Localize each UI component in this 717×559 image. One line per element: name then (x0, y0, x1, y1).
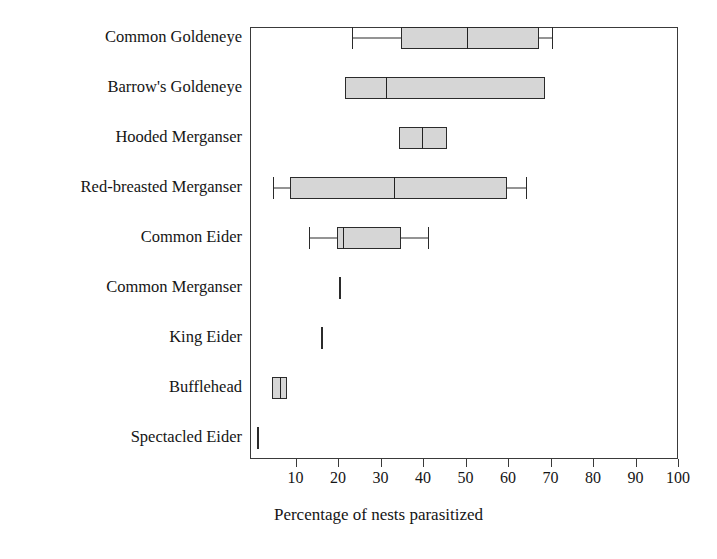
box-plot-row (251, 273, 677, 303)
box-plot-row (251, 123, 677, 153)
x-axis-tick-label: 70 (543, 470, 559, 486)
category-label: Common Eider (0, 229, 242, 246)
x-axis-tick-labels: 102030405060708090100 (250, 470, 678, 492)
x-axis-tick (636, 459, 637, 467)
box-plot-lower-whisker-cap (309, 227, 310, 249)
x-axis-tick-label: 30 (373, 470, 389, 486)
box-plot-lower-whisker (352, 38, 401, 39)
box-plot-upper-whisker-cap (526, 177, 527, 199)
box-plot-upper-whisker (507, 188, 526, 189)
box-plot-row (251, 23, 677, 53)
box-plot-row (251, 423, 677, 453)
x-axis-tick-label: 80 (585, 470, 601, 486)
box-plot-row (251, 173, 677, 203)
box-plot-median-line (343, 227, 344, 249)
x-axis-tick (678, 459, 679, 467)
category-label: Common Merganser (0, 279, 242, 296)
category-label: Barrow's Goldeneye (0, 79, 242, 96)
category-label: Red-breasted Merganser (0, 179, 242, 196)
plot-area (251, 28, 677, 458)
x-axis-tick-label: 50 (458, 470, 474, 486)
category-label: Bufflehead (0, 379, 242, 396)
category-label: Spectacled Eider (0, 429, 242, 446)
box-plot-single-value-marker (321, 327, 323, 349)
x-axis-tick-label: 20 (330, 470, 346, 486)
box-plot-lower-whisker-cap (352, 27, 353, 49)
box-plot-single-value-marker (257, 427, 259, 449)
box-plot-lower-whisker-cap (273, 177, 274, 199)
box-plot-row (251, 73, 677, 103)
box-plot-median-line (394, 177, 395, 199)
x-axis-tick (338, 459, 339, 467)
box-plot-single-value-marker (339, 277, 341, 299)
x-axis-ticks (250, 459, 678, 468)
box-plot-median-line (280, 377, 281, 399)
x-axis-tick-label: 40 (415, 470, 431, 486)
x-axis-tick (508, 459, 509, 467)
box-plot-lower-whisker (309, 238, 337, 239)
box-plot-upper-whisker (401, 238, 429, 239)
x-axis-tick-label: 60 (500, 470, 516, 486)
category-label: Common Goldeneye (0, 29, 242, 46)
x-axis-tick-label: 90 (628, 470, 644, 486)
box-plot-box (399, 127, 448, 149)
x-axis-tick (466, 459, 467, 467)
box-plot-upper-whisker-cap (428, 227, 429, 249)
box-plot-row (251, 373, 677, 403)
box-plot-median-line (422, 127, 423, 149)
x-axis-tick (423, 459, 424, 467)
category-label: Hooded Merganser (0, 129, 242, 146)
box-plot-figure: Common GoldeneyeBarrow's GoldeneyeHooded… (0, 0, 717, 559)
x-axis-tick (381, 459, 382, 467)
box-plot-box (337, 227, 401, 249)
box-plot-box (345, 77, 545, 99)
box-plot-median-line (467, 27, 468, 49)
x-axis-title-text: Percentage of nests parasitized (234, 505, 483, 524)
x-axis-title: Percentage of nests parasitized (0, 506, 717, 523)
box-plot-box (290, 177, 507, 199)
plot-frame (250, 27, 678, 459)
box-plot-row (251, 223, 677, 253)
x-axis-tick-label: 10 (288, 470, 304, 486)
category-axis-labels: Common GoldeneyeBarrow's GoldeneyeHooded… (0, 0, 242, 459)
category-label: King Eider (0, 329, 242, 346)
box-plot-upper-whisker (539, 38, 552, 39)
box-plot-upper-whisker-cap (552, 27, 553, 49)
x-axis-tick (296, 459, 297, 467)
box-plot-median-line (386, 77, 387, 99)
x-axis-tick (593, 459, 594, 467)
x-axis-tick (551, 459, 552, 467)
x-axis-tick-label: 100 (666, 470, 690, 486)
box-plot-row (251, 323, 677, 353)
box-plot-box (401, 27, 539, 49)
box-plot-lower-whisker (273, 188, 290, 189)
